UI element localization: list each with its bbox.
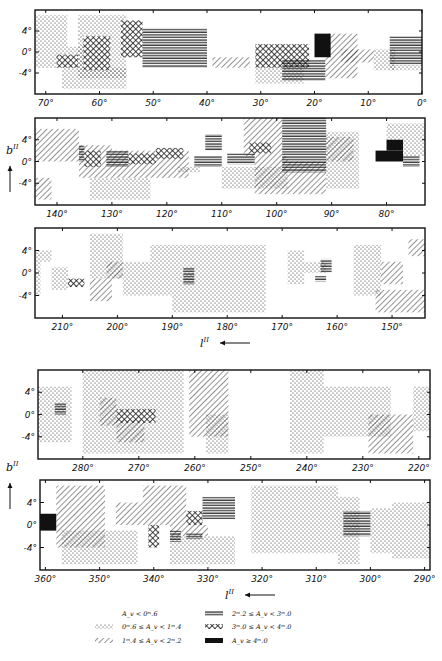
y-tick-label: 4° xyxy=(27,498,37,508)
x-tick-label: 350° xyxy=(89,574,111,584)
legend-item-solid: A_v ≥ 4ᵐ.0 xyxy=(205,637,268,645)
y-tick-label: -4° xyxy=(19,68,32,78)
region-group xyxy=(40,486,430,565)
x-axis-label: lII xyxy=(225,588,275,602)
x-tick-label: 140° xyxy=(46,209,68,219)
extinction-region-dots xyxy=(206,415,228,454)
extinction-region-hatch xyxy=(90,279,112,302)
x-tick-label: 120° xyxy=(156,209,178,219)
legend-swatch xyxy=(205,638,223,643)
extinction-region-dots xyxy=(35,15,67,47)
extinction-region-cross xyxy=(156,148,183,159)
extinction-region-dots xyxy=(51,267,67,290)
x-tick-label: 30° xyxy=(253,98,269,108)
y-tick-label: -4° xyxy=(22,432,35,442)
panel-4: 280°270°260°250°240°230°220°4°0°-4° xyxy=(22,370,430,473)
extinction-region-cross xyxy=(128,153,155,164)
extinction-region-solid xyxy=(376,151,403,162)
x-tick-label: 40° xyxy=(199,98,215,108)
x-tick-label: 340° xyxy=(143,574,165,584)
x-tick-label: 330° xyxy=(197,574,219,584)
extinction-region-dots xyxy=(354,245,381,296)
y-tick-label: 0° xyxy=(22,157,32,167)
extinction-region-hatch xyxy=(409,239,425,256)
x-tick-label: 250° xyxy=(240,463,262,473)
extinction-map-figure: 70°60°50°40°30°20°10°0°4°0°-4°140°130°12… xyxy=(0,0,442,661)
x-tick-label: 130° xyxy=(101,209,123,219)
extinction-region-hlines xyxy=(186,533,202,539)
x-tick-label: 310° xyxy=(305,574,327,584)
extinction-region-cross xyxy=(121,21,143,58)
x-tick-label: 150° xyxy=(381,322,403,332)
x-tick-label: 110° xyxy=(211,209,233,219)
svg-text:lII: lII xyxy=(225,588,234,602)
legend-item-dots: 0ᵐ.6 ≤ A_v < 1ᵐ.4 xyxy=(95,623,181,631)
region-group xyxy=(35,234,425,313)
extinction-region-dots xyxy=(178,167,200,172)
x-tick-label: 240° xyxy=(296,463,318,473)
x-tick-label: 210° xyxy=(52,322,74,332)
legend-item-hlines: 2ᵐ.2 ≤ A_v < 3ᵐ.0 xyxy=(205,610,291,618)
legend-swatch xyxy=(95,638,113,643)
x-tick-label: 270° xyxy=(128,463,150,473)
y-axis-label: bII xyxy=(6,143,19,192)
extinction-region-hatch xyxy=(35,178,51,200)
y-tick-label: 4° xyxy=(22,26,32,36)
extinction-region-cross xyxy=(148,525,159,548)
x-tick-label: 180° xyxy=(216,322,238,332)
x-tick-label: 100° xyxy=(266,209,288,219)
extinction-region-hlines xyxy=(343,511,370,536)
extinction-region-cross xyxy=(83,36,110,70)
extinction-region-hlines xyxy=(403,156,419,167)
extinction-region-hatch xyxy=(212,57,250,68)
svg-text:lII: lII xyxy=(200,336,209,350)
region-group xyxy=(35,15,422,89)
extinction-region-hlines xyxy=(194,156,221,167)
legend-label: 1ᵐ.4 ≤ A_v < 2ᵐ.2 xyxy=(122,637,181,645)
panel-2: 140°130°120°110°100°90°80°4°0°-4° xyxy=(19,118,425,219)
extinction-region-dots xyxy=(288,251,304,285)
legend-label: 2ᵐ.2 ≤ A_v < 3ᵐ.0 xyxy=(231,610,291,618)
extinction-region-hlines xyxy=(203,497,236,520)
legend-swatch xyxy=(205,624,223,629)
legend-swatch xyxy=(95,624,113,629)
x-tick-label: 90° xyxy=(324,209,340,219)
region-group xyxy=(35,118,425,200)
extinction-region-hlines xyxy=(170,531,181,542)
legend-label: A_v ≥ 4ᵐ.0 xyxy=(231,637,268,645)
x-tick-label: 10° xyxy=(360,98,376,108)
extinction-region-dots xyxy=(390,65,422,70)
extinction-region-hlines xyxy=(315,276,326,282)
y-tick-label: -4° xyxy=(24,543,37,553)
extinction-region-hatch xyxy=(106,262,122,279)
x-tick-label: 200° xyxy=(107,322,129,332)
x-tick-label: 50° xyxy=(145,98,161,108)
extinction-region-dots xyxy=(90,178,150,200)
panels-layer: 70°60°50°40°30°20°10°0°4°0°-4°140°130°12… xyxy=(6,10,435,602)
y-tick-label: 4° xyxy=(22,246,32,256)
extinction-region-hlines xyxy=(183,267,194,284)
extinction-region-hatch xyxy=(376,290,425,313)
extinction-region-hatch xyxy=(116,503,186,526)
panel-1: 70°60°50°40°30°20°10°0°4°0°-4° xyxy=(19,10,428,108)
extinction-region-dots xyxy=(290,370,324,453)
extinction-region-hatch xyxy=(341,49,373,62)
extinction-region-cross xyxy=(186,511,202,525)
x-tick-label: 80° xyxy=(379,209,395,219)
legend-swatch xyxy=(205,611,223,616)
extinction-region-hatch xyxy=(288,162,326,195)
legend-item-blank: A_v < 0ᵐ.6 xyxy=(121,610,158,618)
region-group xyxy=(38,370,430,453)
panel-5: 360°350°340°330°320°310°300°290°4°0°-4° xyxy=(24,480,436,584)
extinction-region-cross xyxy=(84,151,100,167)
extinction-region-hlines xyxy=(282,60,325,81)
svg-text:bII: bII xyxy=(6,143,19,157)
x-tick-label: 280° xyxy=(72,463,94,473)
extinction-region-hatch xyxy=(381,262,403,285)
x-tick-label: 190° xyxy=(161,322,183,332)
legend-item-cross: 3ᵐ.0 ≤ A_v < 4ᵐ.0 xyxy=(205,623,291,631)
extinction-region-hlines xyxy=(55,403,66,414)
extinction-region-hlines xyxy=(321,259,332,273)
extinction-region-dots xyxy=(123,262,150,296)
legend-label: A_v < 0ᵐ.6 xyxy=(121,610,158,618)
